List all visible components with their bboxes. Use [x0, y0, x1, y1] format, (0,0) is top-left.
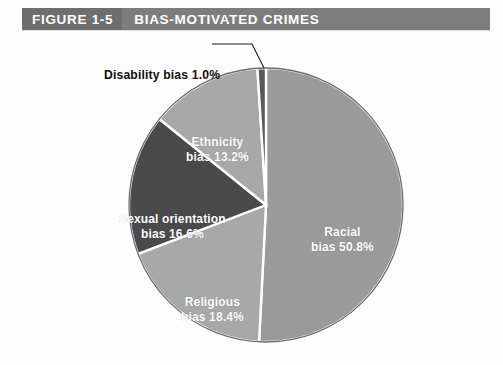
slice-label-sexual-line2: bias 16.6% — [119, 227, 226, 242]
disability-callout-label: Disability bias 1.0% — [104, 68, 220, 82]
pie-chart-figure: Disability bias 1.0% Racial bias 50.8% R… — [0, 30, 503, 365]
slice-label-ethnicity-line2: bias 13.2% — [186, 150, 249, 165]
slice-label-sexual-line1: Sexual orientation — [119, 212, 226, 227]
slice-label-racial-line2: bias 50.8% — [311, 240, 374, 255]
slice-label-religious-line2: bias 18.4% — [181, 310, 244, 325]
slice-label-racial-line1: Racial — [311, 225, 374, 240]
pie-chart-svg — [0, 30, 503, 365]
figure-number-box: FIGURE 1-5 — [22, 8, 122, 30]
figure-number-label: FIGURE 1-5 — [32, 12, 113, 27]
slice-label-racial: Racial bias 50.8% — [311, 225, 374, 254]
pie-slice-group — [129, 68, 403, 342]
slice-label-sexual-orientation: Sexual orientation bias 16.6% — [119, 212, 226, 241]
figure-header-bar: FIGURE 1-5 BIAS-MOTIVATED CRIMES — [22, 8, 490, 30]
slice-label-religious: Religious bias 18.4% — [181, 295, 244, 324]
disability-callout-leader-line — [212, 44, 264, 68]
slice-label-ethnicity-line1: Ethnicity — [186, 135, 249, 150]
slice-label-religious-line1: Religious — [181, 295, 244, 310]
pie-slice-racial-bias[interactable] — [259, 68, 403, 342]
figure-title-label: BIAS-MOTIVATED CRIMES — [122, 12, 319, 27]
slice-label-ethnicity: Ethnicity bias 13.2% — [186, 135, 249, 164]
